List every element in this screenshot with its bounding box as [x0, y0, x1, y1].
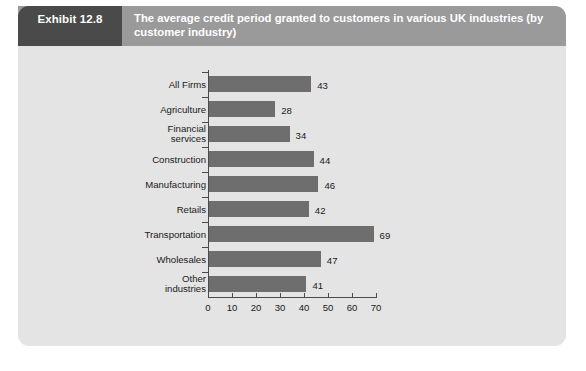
- page-footnote: [20, 356, 320, 366]
- category-label: Retails: [66, 204, 206, 215]
- x-axis-tick-label: 30: [275, 302, 286, 313]
- x-axis-tick: [328, 293, 329, 297]
- x-axis-tick-label: 40: [299, 302, 310, 313]
- category-label: Financial services: [66, 124, 206, 145]
- bar[interactable]: [208, 276, 306, 292]
- bar-row: Retails42: [18, 197, 566, 222]
- x-axis-tick: [208, 293, 209, 297]
- x-axis-tick-label: 70: [371, 302, 382, 313]
- exhibit-tag-label: Exhibit 12.8: [37, 13, 102, 25]
- bar[interactable]: [208, 151, 314, 167]
- y-axis-line: [208, 70, 209, 297]
- x-axis-tick: [352, 293, 353, 297]
- bar-row: Agriculture28: [18, 97, 566, 122]
- category-label: Other industries: [66, 274, 206, 295]
- bar-row: Wholesales47: [18, 247, 566, 272]
- bar-row: Construction44: [18, 147, 566, 172]
- x-axis-tick-label: 50: [323, 302, 334, 313]
- x-axis-line: [208, 297, 377, 298]
- bar-value-label: 43: [317, 79, 328, 90]
- bar[interactable]: [208, 76, 311, 92]
- x-axis-tick: [280, 293, 281, 297]
- bar-row: Manufacturing46: [18, 172, 566, 197]
- bar[interactable]: [208, 226, 374, 242]
- chart-panel: All Firms43Agriculture28Financial servic…: [18, 46, 566, 346]
- bar-value-label: 28: [281, 104, 292, 115]
- category-label: Transportation: [66, 229, 206, 240]
- bar-value-label: 44: [320, 154, 331, 165]
- category-label: Agriculture: [66, 104, 206, 115]
- bar-value-label: 46: [324, 179, 335, 190]
- bar[interactable]: [208, 101, 275, 117]
- x-axis-tick: [376, 293, 377, 297]
- bar[interactable]: [208, 176, 318, 192]
- bar[interactable]: [208, 251, 321, 267]
- x-axis-tick-label: 60: [347, 302, 358, 313]
- category-label: Wholesales: [66, 254, 206, 265]
- bar-value-label: 42: [315, 204, 326, 215]
- bar-row: Financial services34: [18, 122, 566, 147]
- bar-value-label: 47: [327, 254, 338, 265]
- category-label: All Firms: [66, 79, 206, 90]
- bar-value-label: 34: [296, 129, 307, 140]
- exhibit-title: The average credit period granted to cus…: [122, 6, 566, 46]
- bar-chart-plot-area: All Firms43Agriculture28Financial servic…: [18, 46, 566, 346]
- bar-row: Other industries41: [18, 272, 566, 297]
- category-label: Manufacturing: [66, 179, 206, 190]
- x-axis-tick: [232, 293, 233, 297]
- bar-row: Transportation69: [18, 222, 566, 247]
- x-axis-tick-label: 20: [251, 302, 262, 313]
- bar-row: All Firms43: [18, 72, 566, 97]
- bar-value-label: 69: [380, 229, 391, 240]
- bar-value-label: 41: [312, 279, 323, 290]
- x-axis-tick-label: 10: [227, 302, 238, 313]
- bar[interactable]: [208, 126, 290, 142]
- exhibit-header: Exhibit 12.8 The average credit period g…: [18, 6, 566, 46]
- category-label: Construction: [66, 154, 206, 165]
- x-axis-tick-label: 0: [205, 302, 210, 313]
- x-axis-tick: [304, 293, 305, 297]
- x-axis-tick: [256, 293, 257, 297]
- bar[interactable]: [208, 201, 309, 217]
- exhibit-tag: Exhibit 12.8: [18, 6, 122, 46]
